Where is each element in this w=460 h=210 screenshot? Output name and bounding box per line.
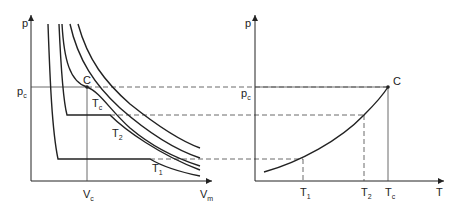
tc-label: Tc	[92, 97, 103, 111]
pv-diagram: p pc C Tc T2 T1 Vc Vm	[17, 15, 388, 202]
left-x-label: Vm	[200, 188, 213, 202]
isotherm-t1	[48, 24, 200, 176]
critical-point-right	[386, 85, 390, 89]
tick-tc: Tc	[385, 186, 396, 200]
tick-t1: T1	[300, 186, 311, 200]
right-c-label: C	[393, 75, 401, 87]
tick-t2: T2	[361, 186, 372, 200]
isotherm-t2	[59, 24, 200, 170]
right-pc-label: pc	[241, 87, 251, 101]
right-x-label: T	[436, 186, 443, 198]
left-pc-label: pc	[17, 85, 27, 99]
t2-label: T2	[112, 127, 123, 141]
right-y-label: p	[245, 17, 251, 29]
left-y-label: p	[22, 17, 28, 29]
isotherm-tc	[62, 24, 200, 166]
pt-diagram: p pc C T1 T2 Tc T	[241, 15, 444, 200]
vc-label: Vc	[83, 188, 94, 202]
phase-diagram: p pc C Tc T2 T1 Vc Vm p pc C T1 T2 Tc T	[0, 0, 460, 210]
isotherm-high-1	[70, 24, 200, 158]
isotherm-high-2	[78, 24, 200, 148]
left-c-label: C	[83, 74, 91, 86]
